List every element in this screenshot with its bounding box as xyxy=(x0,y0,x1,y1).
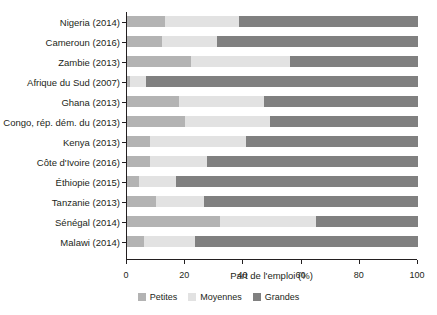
bar-segment-moyennes[interactable] xyxy=(191,56,290,67)
bar-row[interactable] xyxy=(127,156,418,167)
bar-segment-moyennes[interactable] xyxy=(156,196,204,207)
bar-segment-petites[interactable] xyxy=(127,236,144,247)
x-axis-line xyxy=(126,259,417,260)
legend-item[interactable]: Grandes xyxy=(253,292,300,302)
legend-item[interactable]: Petites xyxy=(138,292,178,302)
bar-segment-grandes[interactable] xyxy=(207,156,418,167)
bar-segment-grandes[interactable] xyxy=(204,196,418,207)
bar-segment-moyennes[interactable] xyxy=(179,96,263,107)
bar-segment-petites[interactable] xyxy=(127,36,162,47)
y-axis-label: Afrique du Sud (2007) xyxy=(0,77,120,88)
bar-row[interactable] xyxy=(127,56,418,67)
x-tick xyxy=(126,260,127,264)
y-tick xyxy=(122,22,126,23)
bar-segment-petites[interactable] xyxy=(127,176,139,187)
bar-segment-grandes[interactable] xyxy=(195,236,418,247)
bar-segment-petites[interactable] xyxy=(127,216,220,227)
y-tick xyxy=(122,62,126,63)
bar-segment-moyennes[interactable] xyxy=(144,236,195,247)
y-axis-label: Nigeria (2014) xyxy=(0,17,120,28)
x-tick xyxy=(417,260,418,264)
bar-row[interactable] xyxy=(127,176,418,187)
bar-row[interactable] xyxy=(127,236,418,247)
bar-segment-moyennes[interactable] xyxy=(162,36,217,47)
legend-label: Grandes xyxy=(265,292,300,302)
bar-segment-moyennes[interactable] xyxy=(165,16,239,27)
legend-swatch-icon xyxy=(188,293,196,301)
x-tick xyxy=(184,260,185,264)
bar-row[interactable] xyxy=(127,96,418,107)
stacked-bar-chart: 020406080100 Nigeria (2014)Cameroun (201… xyxy=(0,0,437,315)
bar-segment-moyennes[interactable] xyxy=(220,216,316,227)
y-tick xyxy=(122,42,126,43)
x-tick xyxy=(359,260,360,264)
y-axis-label: Éthiopie (2015) xyxy=(0,177,120,188)
y-axis-label: Sénégal (2014) xyxy=(0,217,120,228)
y-axis-label: Tanzanie (2013) xyxy=(0,197,120,208)
y-tick xyxy=(122,142,126,143)
bar-segment-moyennes[interactable] xyxy=(139,176,177,187)
bar-segment-petites[interactable] xyxy=(127,136,150,147)
y-axis-label: Congo, rép. dém. du (2013) xyxy=(0,117,120,128)
bar-segment-grandes[interactable] xyxy=(270,116,418,127)
bar-row[interactable] xyxy=(127,116,418,127)
bar-segment-grandes[interactable] xyxy=(290,56,418,67)
bar-row[interactable] xyxy=(127,76,418,87)
bar-row[interactable] xyxy=(127,16,418,27)
x-axis-title: Part de l'emploi (%) xyxy=(126,270,417,281)
bar-segment-moyennes[interactable] xyxy=(150,136,246,147)
bar-segment-moyennes[interactable] xyxy=(130,76,146,87)
y-tick xyxy=(122,82,126,83)
bar-row[interactable] xyxy=(127,36,418,47)
bar-segment-grandes[interactable] xyxy=(217,36,418,47)
y-axis-label: Ghana (2013) xyxy=(0,97,120,108)
y-axis-label: Kenya (2013) xyxy=(0,137,120,148)
bar-row[interactable] xyxy=(127,136,418,147)
legend-label: Petites xyxy=(150,292,178,302)
legend-label: Moyennes xyxy=(200,292,242,302)
y-tick xyxy=(122,102,126,103)
legend-item[interactable]: Moyennes xyxy=(188,292,242,302)
x-tick xyxy=(242,260,243,264)
chart-legend: PetitesMoyennesGrandes xyxy=(0,292,437,302)
bar-segment-grandes[interactable] xyxy=(239,16,418,27)
legend-swatch-icon xyxy=(138,293,146,301)
bar-segment-grandes[interactable] xyxy=(176,176,418,187)
bar-segment-petites[interactable] xyxy=(127,16,165,27)
y-tick xyxy=(122,222,126,223)
bar-segment-grandes[interactable] xyxy=(264,96,418,107)
x-tick xyxy=(301,260,302,264)
y-axis-label: Côte d'Ivoire (2016) xyxy=(0,157,120,168)
y-axis-label: Cameroun (2016) xyxy=(0,37,120,48)
y-tick xyxy=(122,162,126,163)
bar-segment-grandes[interactable] xyxy=(146,76,418,87)
y-tick xyxy=(122,242,126,243)
bar-segment-grandes[interactable] xyxy=(316,216,418,227)
bar-segment-moyennes[interactable] xyxy=(150,156,207,167)
y-tick xyxy=(122,202,126,203)
bar-segment-petites[interactable] xyxy=(127,56,191,67)
y-tick xyxy=(122,122,126,123)
y-tick xyxy=(122,182,126,183)
y-axis-label: Malawi (2014) xyxy=(0,237,120,248)
bar-segment-grandes[interactable] xyxy=(246,136,418,147)
bar-segment-moyennes[interactable] xyxy=(185,116,269,127)
bar-segment-petites[interactable] xyxy=(127,96,179,107)
legend-swatch-icon xyxy=(253,293,261,301)
bar-segment-petites[interactable] xyxy=(127,116,185,127)
bar-segment-petites[interactable] xyxy=(127,196,156,207)
bar-segment-petites[interactable] xyxy=(127,156,150,167)
y-axis-label: Zambie (2013) xyxy=(0,57,120,68)
bar-row[interactable] xyxy=(127,196,418,207)
plot-area: 020406080100 xyxy=(126,12,417,260)
bar-row[interactable] xyxy=(127,216,418,227)
